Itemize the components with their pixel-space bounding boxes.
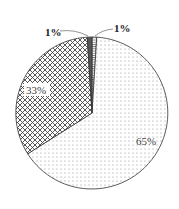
label-slice0: 65% (136, 135, 156, 147)
label-slice3: 1% (114, 22, 131, 34)
label-slice2: 1% (45, 26, 62, 38)
leader-line-right (95, 29, 113, 36)
pie-chart: 1% 1% 33% 65% (0, 0, 179, 209)
leader-line-left (60, 31, 88, 36)
label-slice1: 33% (26, 84, 46, 96)
